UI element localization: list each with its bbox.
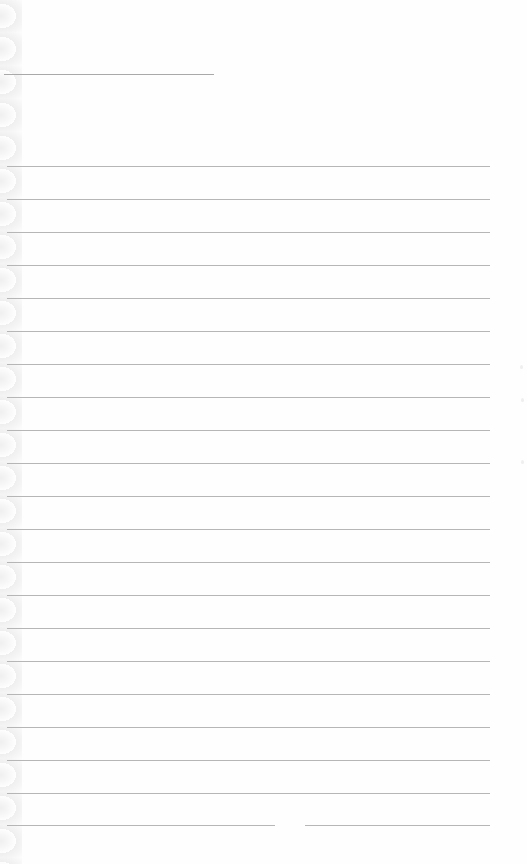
- ruled-line: [7, 760, 490, 761]
- ruled-line: [7, 661, 490, 662]
- edge-mark: [521, 398, 524, 402]
- ruled-line: [7, 397, 490, 398]
- binding-edge: [0, 0, 22, 864]
- ruled-line: [7, 595, 490, 596]
- ruled-line: [7, 463, 490, 464]
- ruled-line: [7, 529, 490, 530]
- ruled-line: [7, 331, 490, 332]
- ruled-line: [7, 199, 490, 200]
- header-line: [4, 74, 214, 75]
- ruled-line: [7, 562, 490, 563]
- ruled-line: [7, 793, 490, 794]
- ruled-line: [7, 628, 490, 629]
- ruled-line: [7, 430, 490, 431]
- edge-mark: [520, 365, 523, 369]
- ruled-line: [7, 298, 490, 299]
- ruled-line: [7, 232, 490, 233]
- ruled-line: [305, 825, 490, 826]
- edge-mark: [521, 460, 524, 464]
- ruled-line: [7, 265, 490, 266]
- ruled-line: [7, 166, 490, 167]
- ruled-line: [7, 825, 275, 826]
- notebook-page: [0, 0, 527, 864]
- ruled-line: [7, 496, 490, 497]
- ruled-line: [7, 694, 490, 695]
- ruled-line: [7, 727, 490, 728]
- ruled-line: [7, 364, 490, 365]
